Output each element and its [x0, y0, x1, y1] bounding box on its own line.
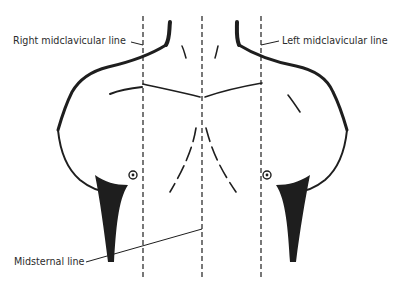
- left-flank-shading: [276, 175, 310, 262]
- right-midclavicular-leader: [131, 42, 143, 45]
- left-pectoral-line: [206, 128, 236, 192]
- right-deltoid-line: [110, 87, 142, 94]
- right-flank-shading: [95, 175, 128, 262]
- left-deltoid-line: [288, 95, 300, 112]
- left-trapezius-line: [215, 46, 218, 58]
- left-midclavicular-label: Left midclavicular line: [282, 35, 388, 46]
- midsternal-leader: [86, 229, 202, 262]
- right-shoulder-outline: [58, 45, 166, 130]
- left-clavicle: [205, 83, 262, 97]
- left-shoulder-outline: [239, 45, 347, 130]
- right-clavicle: [143, 84, 200, 97]
- right-trapezius-line: [182, 46, 186, 58]
- left-midclavicular-leader: [261, 41, 279, 45]
- left-nipple-icon: [263, 171, 271, 179]
- neck-left-outline: [237, 22, 239, 45]
- right-midclavicular-label: Right midclavicular line: [13, 35, 126, 46]
- right-nipple-icon: [129, 171, 137, 179]
- neck-right-outline: [166, 22, 170, 45]
- midsternal-label: Midsternal line: [14, 256, 84, 267]
- right-pectoral-line: [170, 128, 196, 192]
